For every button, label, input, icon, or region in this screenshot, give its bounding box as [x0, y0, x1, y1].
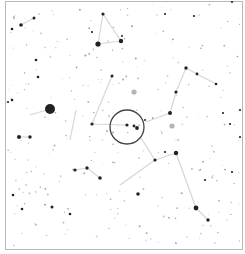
faint-star [217, 232, 219, 234]
faint-star [175, 140, 176, 141]
star [12, 194, 15, 197]
faint-star [143, 188, 145, 190]
faint-star [13, 16, 15, 18]
faint-star [161, 7, 162, 8]
faint-star [223, 45, 225, 47]
faint-star [237, 56, 239, 58]
faint-star [167, 75, 169, 77]
faint-star [25, 27, 27, 29]
star [133, 125, 136, 128]
star [164, 151, 166, 153]
faint-star [158, 89, 159, 90]
faint-star [114, 217, 116, 219]
faint-star [27, 159, 29, 161]
star [119, 39, 123, 43]
constellation-line [186, 68, 197, 74]
faint-star [234, 124, 235, 125]
faint-star [177, 61, 179, 63]
faint-star [45, 188, 47, 190]
faint-star [40, 32, 42, 34]
faint-star [101, 139, 103, 141]
faint-star [239, 204, 240, 205]
faint-star [224, 124, 226, 126]
faint-star [172, 57, 174, 59]
faint-star [71, 90, 73, 92]
faint-star [213, 151, 215, 153]
star [144, 119, 146, 121]
faint-star [13, 18, 15, 20]
star [19, 23, 23, 27]
faint-star [52, 149, 54, 151]
faint-star [220, 27, 221, 28]
faint-star [85, 194, 86, 195]
faint-star [98, 79, 99, 80]
faint-star [176, 207, 178, 209]
faint-star [54, 145, 56, 147]
sky-map [0, 0, 245, 254]
faint-star [138, 157, 140, 159]
faint-star [124, 38, 126, 40]
faint-star [44, 116, 46, 118]
constellation-line [176, 68, 186, 92]
star [239, 109, 241, 111]
faint-star [127, 132, 128, 133]
faint-star [65, 135, 67, 137]
faint-star [63, 222, 65, 224]
faint-star [160, 130, 162, 132]
faint-star [107, 40, 108, 41]
faint-star [157, 242, 158, 243]
faint-star [64, 211, 65, 212]
faint-star [96, 236, 98, 238]
star [231, 1, 233, 3]
faint-star [136, 110, 137, 111]
faint-star [100, 82, 101, 83]
star [45, 104, 55, 114]
faint-star [156, 14, 157, 15]
faint-star [76, 67, 78, 69]
faint-star [211, 145, 213, 147]
constellation-line [155, 153, 176, 160]
faint-star [216, 180, 217, 181]
faint-star [189, 207, 190, 208]
star [90, 122, 93, 125]
faint-star [202, 45, 204, 47]
faint-star [118, 82, 119, 83]
faint-star [65, 120, 66, 121]
faint-star [110, 209, 112, 211]
faint-star [43, 173, 45, 175]
gray-stars [131, 89, 174, 128]
faint-star [125, 75, 127, 77]
star [125, 123, 128, 126]
faint-star [74, 99, 75, 100]
faint-star [120, 9, 121, 10]
faint-star [11, 85, 12, 86]
faint-star [25, 84, 26, 85]
faint-star [230, 202, 232, 204]
faint-star [44, 204, 46, 206]
constellation-line [70, 110, 76, 140]
star [135, 126, 139, 130]
faint-star [206, 116, 208, 118]
faint-star [218, 200, 220, 202]
faint-star [67, 208, 69, 210]
faint-star [20, 140, 21, 141]
faint-star [93, 161, 94, 162]
faint-star [90, 20, 91, 21]
faint-star [200, 47, 202, 49]
star [11, 99, 14, 102]
faint-star [38, 13, 40, 15]
faint-star [139, 225, 141, 227]
faint-star [89, 140, 90, 141]
star [69, 213, 72, 216]
faint-star [165, 82, 167, 84]
faint-star [150, 238, 152, 240]
star [17, 135, 21, 139]
faint-star [93, 112, 95, 114]
star [85, 166, 88, 169]
faint-star [8, 89, 9, 90]
constellation-line [170, 92, 176, 113]
gray-star [169, 123, 174, 128]
faint-star [129, 238, 130, 239]
faint-star [39, 186, 41, 188]
faint-star [25, 184, 27, 186]
